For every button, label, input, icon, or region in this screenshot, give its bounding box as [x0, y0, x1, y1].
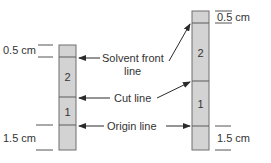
origin-line-label: Origin line	[107, 120, 157, 132]
right-dimension-ticks	[215, 11, 232, 150]
solvent-front-label-line2: line	[124, 65, 141, 77]
right-bottom-margin-label: 1.5 cm	[217, 132, 250, 144]
right-region-1-label: 1	[192, 98, 209, 110]
left-region-2-label: 2	[59, 71, 76, 83]
right-chromatography-strip	[192, 11, 209, 150]
left-dimension-ticks	[36, 45, 53, 150]
left-region-1-label: 1	[59, 106, 76, 118]
left-bottom-margin-label: 1.5 cm	[3, 132, 36, 144]
left-top-margin-label: 0.5 cm	[3, 44, 36, 56]
left-chromatography-strip	[59, 45, 76, 150]
arrow-cut-right	[157, 82, 190, 98]
right-top-margin-label: 0.5 cm	[217, 11, 250, 23]
cut-line-label: Cut line	[114, 92, 151, 104]
arrow-solvent-front-right	[169, 24, 190, 61]
solvent-front-label-line1: Solvent front	[102, 52, 164, 64]
right-region-2-label: 2	[192, 47, 209, 59]
